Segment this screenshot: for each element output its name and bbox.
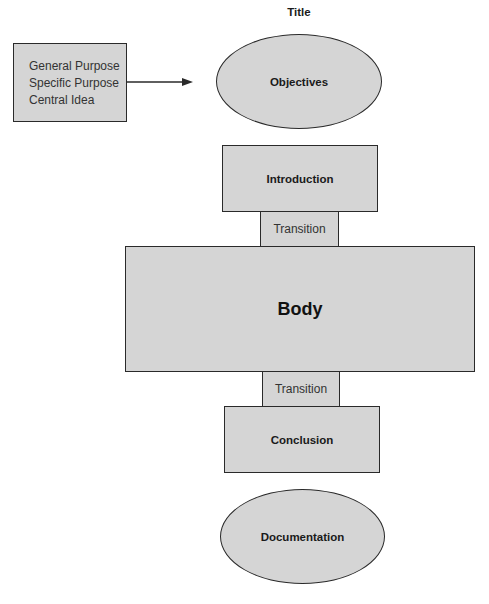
transition-label-2: Transition xyxy=(275,382,327,396)
documentation-node: Documentation xyxy=(220,489,385,584)
specific-purpose-label: Specific Purpose xyxy=(29,75,126,92)
documentation-label: Documentation xyxy=(261,531,345,543)
conclusion-node: Conclusion xyxy=(224,406,380,473)
introduction-label: Introduction xyxy=(266,173,333,185)
diagram-title: Title xyxy=(244,6,354,18)
conclusion-label: Conclusion xyxy=(271,434,334,446)
transition-label-1: Transition xyxy=(273,222,325,236)
arrow-right-icon xyxy=(126,74,196,90)
objectives-label: Objectives xyxy=(270,76,328,88)
transition-node-1: Transition xyxy=(260,211,339,247)
general-purpose-label: General Purpose xyxy=(29,58,126,75)
introduction-node: Introduction xyxy=(222,145,378,212)
transition-node-2: Transition xyxy=(262,371,340,407)
central-idea-label: Central Idea xyxy=(29,92,126,109)
objectives-node: Objectives xyxy=(216,34,382,129)
body-label: Body xyxy=(278,299,323,320)
body-node: Body xyxy=(125,246,475,372)
purpose-box: General Purpose Specific Purpose Central… xyxy=(13,43,127,122)
